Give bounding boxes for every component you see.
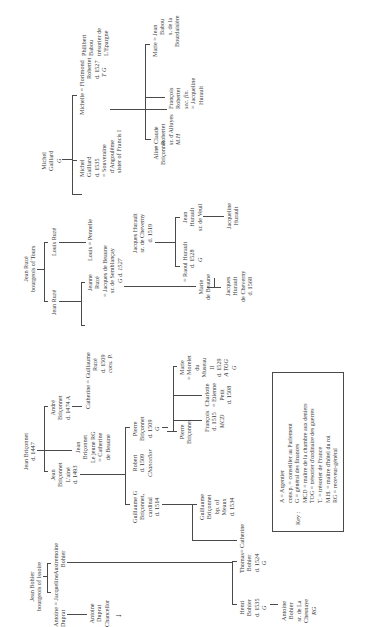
key-legend: Key : A = Argentier cons.p. = conseiller… [272,372,344,532]
key-entry: T. = trésorier de France [317,403,325,503]
key-entry: G = général des finances [294,403,302,503]
node-raoul-hurault: = Raoul Hurault d. 1528 G [181,242,203,282]
node-jacques-hurault-cheverny: Jacques Hurault de Cheverny d. 1568 [224,271,254,302]
node-francois-robertet: François Robertet sec. fin. = Jacqueline… [167,78,204,109]
node-catherine-briconnet-wife: = Catherine [238,524,245,553]
node-austremoine-bohier: Austremoine Bohier [52,543,67,575]
node-jean-briconnet: Jean Briçonnet d. 1447 [22,433,37,470]
arrow-icon: ↓ [113,614,123,619]
node-guillaume-briconnet-cardinal: Guillaume G Briçonnet, cardinal d. 1514 [131,491,161,523]
node-jean-ruze-son: Jean Ruzé [50,290,57,315]
node-catherine-briconnet: Catherine = Guillaume Ruzé d. 1509 cons.… [84,352,114,409]
node-michel-gaillard-son: Michel Gaillard d. 1535 = Souveraine d'A… [78,130,122,177]
key-entry: MCD = maître de la chambre aux deniers [302,403,310,503]
node-henri-bohier: Henri Bohier d. 1535 G [238,598,268,617]
key-entry: TOG = trésorier d'ordinaire des guerres [309,403,317,503]
node-jean-briconnet-aine: Jean Briçonnet L'ainé d. 1493 [49,463,79,487]
node-pierre-briconnet-g: Pierre Briçonnet d. 1509 G [131,417,161,441]
node-jean-bohier: Jean Bohier bourgeois of Issoire [28,562,43,611]
node-robert-briconnet: Robert d. 1509 Chancellor [131,449,153,477]
node-jacques-hurault: Jacques Hurault sr. de Cheverny d. 1519 [131,213,153,253]
node-michelle-florimond: Michelle = Florimond Robertet d. 1527 T … [78,58,108,115]
node-antoine-duprat: Antoine = Jacqueline Duprat [52,574,67,627]
node-louis-pennelle: Louis = Pennelle [86,219,93,261]
node-guillaume-briconnet-meaux: Guillaume Briçonnet bp. of Meaux d. 1534 [198,494,235,520]
node-francois-briconnet: François d. 1515 MCD [203,411,225,432]
key-entry: A = Argentier [279,403,287,503]
node-andre-briconnet: André Briçonnet d. 1474 A [49,396,71,420]
key-label: Key : [295,512,303,525]
node-jean-hurault: Jean Hurault sr. de Veuil [181,203,203,231]
node-michel-gaillard: Michel Gaillard G [40,151,62,171]
node-pierre-briconnet-son: Pierre Briçonnet [178,420,193,444]
node-antoine-duprat-chancellor: Antoine Duprat Chancellor [88,600,110,627]
node-marie-briconnet: Marie = Morelet du Museau II d. 1529 A T… [178,355,237,380]
node-charlotte-briconnet: Charlotte = Etienne Petit d. 1508 [203,383,233,407]
node-marie-jean-babou: Marie = Jean Babou s. de la Bourdaisière [151,15,181,57]
node-jean-ruze: Jean Ruzé bourgeois of Tours [22,246,37,292]
genealogy-diagram: Jean Bohier bourgeois of Issoire Antoine… [0,0,379,627]
node-thomas-bohier: Thomas Bohier d. 1524 G [238,553,268,573]
node-claude-robertet: = Claude Robertet sr. d'Alluyes M.H [152,114,182,149]
key-entry: M.H. = maître d'hôtel du roi [325,403,333,503]
node-louis-ruze: Louis Ruzé [50,228,57,256]
key-entry: RG = receveur-général [332,403,340,503]
node-antoine-bohier-chesnaye: Antoine Bohier sr. de La Chesnaye RG [280,599,317,623]
node-philibert-babou: Philibert Babou trésorier de L'Epargne [80,28,110,56]
node-jacqueline-hurault: Jacqueline Hurault [225,203,240,229]
node-jean-briconnet-jeune: Jean Briçonnet Le jeune RG = Catherine d… [74,431,111,463]
key-entry: cons.p. = conseiller au Parlement [287,403,295,503]
